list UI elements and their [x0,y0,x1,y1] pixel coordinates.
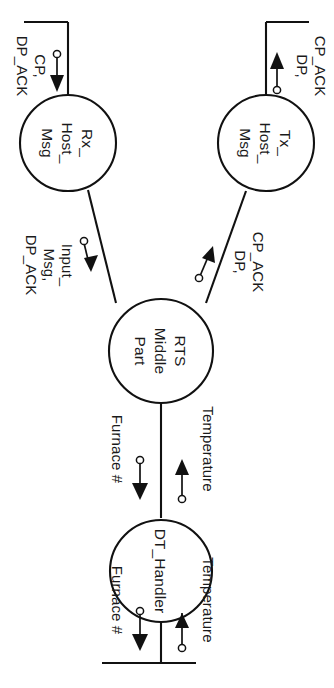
flow-label-rts-to-tx: DP, CP_ACK [232,232,267,293]
flow-arrow-rx-external [50,50,64,92]
flow-label-rx-external-line-2: DP_ACK [14,36,31,97]
node-rts-middle-part-line-2: Middle [152,328,169,374]
flow-arrow-dt-to-rts-temperature [175,459,189,503]
flow-tail-dot [136,456,143,463]
dataflow-diagram-svg: DT_Handler RTS Middle Part Tx_ Host_ Msg… [0,0,334,688]
flow-label-tx-external: DP, CP_ACK [294,36,329,97]
flow-tail-dot [53,50,60,57]
edge-rts-to-tx-host-msg [206,191,246,303]
node-rx-host-msg-line-1: Rx_ [79,129,96,157]
flow-label-rts-to-dt-furnace: Furnace # [109,415,126,484]
edge-rx-host-msg-to-rts [88,190,116,303]
node-rts-middle-part-line-3: Part [132,337,149,366]
flow-tail-dot [136,607,143,614]
flow-label-dt-to-rts-temperature: Temperature [200,406,217,491]
flow-label-rx-external-line-1: CP, [32,54,49,77]
flow-label-external-furnace: Furnace # [109,566,126,635]
flow-arrow-rts-to-dt-furnace [132,456,148,500]
flow-tail-dot [178,495,185,502]
flow-arrow-rts-to-tx [195,246,215,282]
node-dt-handler-line-1: DT_Handler [152,529,169,614]
flow-arrow-tx-external [270,52,284,94]
node-tx-host-msg-line-3: Msg [237,128,254,158]
flow-tail-dot [273,86,280,93]
flow-label-rx-external: CP, DP_ACK [14,36,49,97]
flow-label-tx-external-line-2: CP_ACK [312,36,329,97]
diagram-rotation-layer: DT_Handler RTS Middle Part Tx_ Host_ Msg… [0,0,334,688]
diagram-canvas: DT_Handler RTS Middle Part Tx_ Host_ Msg… [0,0,334,688]
node-label-dt-handler: DT_Handler [152,529,169,614]
flow-label-rts-to-tx-line-2: CP_ACK [250,232,267,293]
node-rts-middle-part-line-1: RTS [172,335,189,366]
flow-label-rx-to-rts-line-1: Input_ [59,244,76,287]
node-rx-host-msg-line-3: Msg [39,128,56,158]
flow-arrow-rx-to-rts [80,237,98,272]
node-tx-host-msg-line-1: Tx_ [277,130,294,156]
flow-label-rx-to-rts-line-2: Msg, [41,249,58,282]
flow-label-external-temperature: Temperature [200,557,217,642]
flow-label-tx-external-line-1: DP, [294,54,311,77]
node-tx-host-msg-line-2: Host_ [257,123,274,164]
flow-label-rx-to-rts-line-3: DP_ACK [23,235,40,296]
flow-tail-dot [195,274,202,281]
flow-label-rx-to-rts: Input_ Msg, DP_ACK [23,235,76,296]
flow-tail-dot [178,644,185,651]
node-rx-host-msg-line-2: Host_ [59,123,76,164]
flow-label-rts-to-tx-line-1: DP, [232,250,249,273]
flow-tail-dot [80,237,87,244]
